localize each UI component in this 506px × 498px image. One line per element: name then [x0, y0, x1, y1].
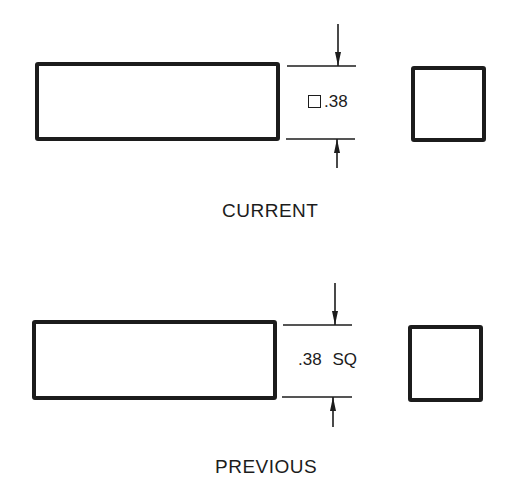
- previous-end-view: [410, 327, 481, 400]
- current-end-view: [413, 68, 484, 140]
- current-figure: [37, 24, 484, 168]
- current-dimension-label: .38: [308, 92, 348, 112]
- previous-dimension-suffix: SQ: [332, 350, 357, 369]
- current-front-view: [37, 64, 278, 139]
- drawing-canvas: [0, 0, 506, 498]
- previous-front-view: [34, 322, 275, 398]
- previous-figure: [34, 283, 481, 427]
- current-caption: CURRENT: [222, 200, 318, 222]
- previous-caption: PREVIOUS: [215, 456, 317, 478]
- current-dimension-value: .38: [324, 92, 348, 111]
- square-symbol-icon: [308, 95, 321, 108]
- previous-dimension-label: .38 SQ: [298, 350, 357, 370]
- previous-dimension-value: .38: [298, 350, 322, 369]
